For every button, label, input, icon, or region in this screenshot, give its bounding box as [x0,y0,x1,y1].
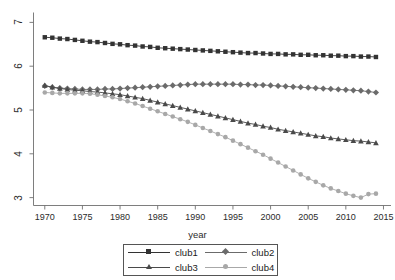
data-marker [65,91,70,96]
data-marker [43,35,47,39]
x-tick-label: 2010 [330,213,362,222]
data-marker [148,45,152,49]
data-marker [223,135,228,140]
data-marker [171,46,175,50]
data-marker [42,90,47,95]
data-marker [230,81,236,87]
data-marker [329,53,333,57]
data-marker [222,81,228,87]
data-marker [140,104,145,109]
data-marker [358,88,364,94]
data-marker [148,106,153,111]
data-marker [291,52,295,56]
data-marker [58,91,63,96]
chart-legend: club1club2club3club4 [123,244,278,276]
data-marker [147,84,153,90]
series-line [45,92,376,197]
data-marker [306,176,311,181]
data-marker [290,84,296,90]
data-marker [103,94,108,99]
data-marker [374,191,379,196]
data-marker [118,42,122,46]
data-marker [314,53,318,57]
data-marker [155,109,160,114]
data-marker [88,91,93,96]
data-marker [306,53,310,57]
data-marker [95,92,100,97]
legend-entry-club2: club2 [201,245,278,260]
data-marker [283,52,287,56]
data-marker [359,195,364,200]
legend-label: club4 [252,262,275,273]
x-tick-label: 1985 [142,213,174,222]
data-marker [193,48,197,52]
data-marker [216,132,221,137]
data-marker [95,40,99,44]
data-marker [359,54,363,58]
data-marker [110,42,114,46]
data-marker [351,194,356,199]
data-marker [238,50,242,54]
y-tick-label: 3 [14,191,24,205]
data-marker [373,89,379,95]
data-marker [328,86,334,92]
data-marker [267,82,273,88]
data-marker [275,83,281,89]
data-marker [208,49,212,53]
legend-key-square-icon [128,248,170,258]
data-marker [88,39,92,43]
chart-figure: 34567 1970197519801985199019952000200520… [0,0,395,280]
data-marker [125,99,130,104]
data-marker [155,83,161,89]
data-marker [132,85,138,91]
legend-key-triangle-icon [128,263,170,273]
data-marker [80,91,85,96]
data-marker [237,81,243,87]
data-marker [65,37,69,41]
data-marker [336,53,340,57]
legend-label: club1 [175,247,198,258]
x-tick-label: 2000 [255,213,287,222]
y-tick-label: 6 [14,59,24,73]
data-marker [350,87,356,93]
data-marker [313,180,318,185]
data-marker [178,47,182,51]
x-tick-label: 1995 [217,213,249,222]
data-marker [283,83,289,89]
series-club1 [43,35,379,59]
data-marker [313,85,319,91]
data-marker [73,91,78,96]
data-marker [223,50,227,54]
data-marker [291,168,296,173]
data-marker [125,43,129,47]
x-tick-label: 1980 [104,213,136,222]
data-marker [118,97,123,102]
x-tick-label: 1975 [66,213,98,222]
data-marker [170,114,175,119]
data-marker [268,52,272,56]
data-marker [208,129,213,134]
data-marker [192,81,198,87]
data-marker [50,36,54,40]
data-marker [344,191,349,196]
data-marker [58,36,62,40]
data-marker [201,126,206,131]
x-axis-title: year [0,229,395,240]
data-marker [335,86,341,92]
data-marker [73,38,77,42]
x-tick-label: 1970 [29,213,61,222]
data-marker [260,82,266,88]
data-marker [336,189,341,194]
data-marker [177,82,183,88]
data-marker [343,87,349,93]
data-marker [193,123,198,128]
data-marker [298,172,303,177]
data-marker [163,46,167,50]
data-marker [216,49,220,53]
data-marker [215,81,221,87]
data-marker [320,85,326,91]
x-tick-label: 2005 [292,213,324,222]
data-marker [200,81,206,87]
data-marker [276,160,281,165]
data-marker [201,48,205,52]
